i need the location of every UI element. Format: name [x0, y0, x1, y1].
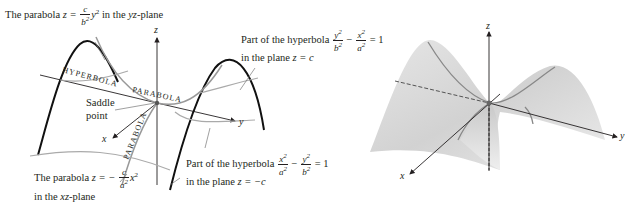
label-parabola-yz: The parabola z = cb2y2 in the yz-plane [5, 5, 163, 27]
label-plane-zc: in the plane z = c [241, 51, 314, 64]
z-axis-label: z [154, 24, 158, 35]
x-axis-label: x [102, 133, 106, 144]
label-xz-plane: in the xz-plane [34, 190, 95, 203]
hyperbola-arc-right [200, 78, 258, 93]
label-parabola-xz: The parabola z = − ca2x2 [34, 168, 138, 190]
z-axis-label-right: z [486, 20, 490, 31]
saddle-point-dot-right [487, 101, 492, 106]
label-plane-zneg-c: in the plane z = −c [186, 175, 266, 188]
y-axis-label-right: y [620, 130, 624, 141]
label-hyperbola: HYPERBOLA [61, 65, 118, 88]
label-hyperbola-zc: Part of the hyperbola y2b2 − x2a2 = 1 [241, 28, 384, 53]
label-parabola-2: PARABOLA [122, 111, 149, 161]
x-axis-label-right: x [400, 170, 404, 181]
label-hyperbola-zneg-c: Part of the hyperbola x2a2 − y2b2 = 1 [186, 152, 329, 177]
label-saddle-point: Saddle point [86, 96, 115, 122]
right-saddle-figure [370, 32, 617, 174]
y-axis-label: y [239, 116, 243, 127]
saddle-point-dot [155, 101, 159, 105]
